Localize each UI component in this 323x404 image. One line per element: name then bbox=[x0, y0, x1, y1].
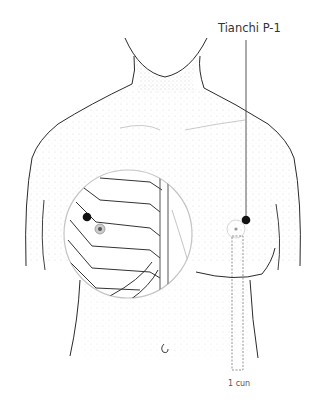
point-label: Tianchi P-1 bbox=[218, 21, 281, 35]
neck bbox=[125, 38, 207, 92]
tianchi-point-body bbox=[242, 216, 251, 225]
torso-illustration bbox=[0, 0, 323, 404]
tianchi-point-inset bbox=[83, 213, 92, 222]
measurement-label: 1 cun bbox=[228, 379, 250, 388]
